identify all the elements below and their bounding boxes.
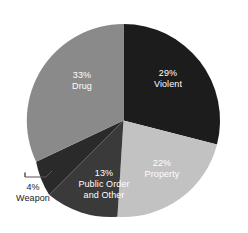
pie-chart: 29% Violent 22% Property 33% Drug 13% Pu… <box>0 0 248 233</box>
pie-chart-canvas <box>0 0 248 233</box>
